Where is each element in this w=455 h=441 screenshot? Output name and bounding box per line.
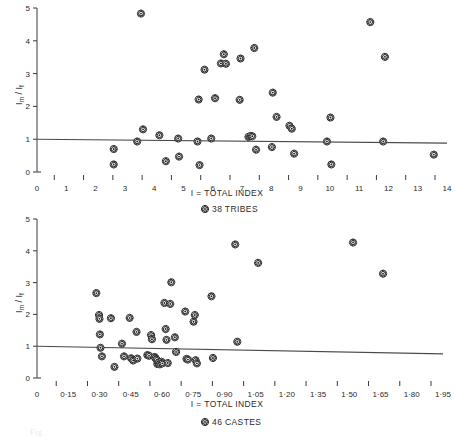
flower-marker: [234, 338, 241, 345]
scatter-plot-tribes: 012345 Im / If 01234567891011121314 I = …: [0, 0, 455, 215]
chart-panel-tribes: 012345 Im / If 01234567891011121314 I = …: [0, 0, 455, 215]
x-tick-label: 14: [443, 184, 452, 193]
legend-marker-tribes: [201, 205, 208, 212]
flower-marker: [175, 135, 182, 142]
flower-marker: [111, 363, 118, 370]
flower-marker: [367, 18, 374, 25]
flower-marker: [163, 336, 170, 343]
y-tick-label: 0: [26, 168, 31, 177]
x-tick-label: 0·75: [185, 390, 202, 399]
flower-marker: [430, 151, 437, 158]
flower-marker: [168, 279, 175, 286]
flower-marker: [120, 353, 127, 360]
y-tick-label: 3: [26, 279, 31, 288]
flower-marker: [133, 328, 140, 335]
flower-marker: [251, 44, 258, 51]
x-tick-label: 0: [35, 390, 40, 399]
flower-marker: [269, 89, 276, 96]
flower-marker: [323, 138, 330, 145]
flower-marker: [118, 340, 125, 347]
flower-marker: [126, 314, 133, 321]
flower-marker: [195, 96, 202, 103]
flower-marker: [148, 336, 155, 343]
flower-marker: [193, 360, 200, 367]
x-tick-label: 13: [413, 184, 422, 193]
legend-castes: 46 CASTES: [201, 417, 261, 427]
x-tick-label: 0·60: [154, 390, 171, 399]
flower-marker: [222, 60, 229, 67]
x-tick-label: 1·65: [373, 390, 390, 399]
flower-marker: [137, 10, 144, 17]
legend-marker-castes: [201, 418, 208, 425]
flower-marker: [380, 138, 387, 145]
x-tick-label: 1·80: [404, 390, 421, 399]
flower-marker: [211, 95, 218, 102]
x-tick-label: 1·20: [279, 390, 296, 399]
flower-marker: [201, 205, 208, 212]
flower-marker: [191, 311, 198, 318]
flower-marker: [208, 135, 215, 142]
flower-marker: [249, 133, 256, 140]
flower-marker: [139, 126, 146, 133]
flower-marker: [237, 55, 244, 62]
y-tick-label-group-tribes: 012345: [26, 4, 31, 177]
flower-marker: [98, 353, 105, 360]
flower-marker: [110, 161, 117, 168]
y-tick-label-group-castes: 012345: [26, 215, 31, 383]
x-tick-label: 2: [93, 184, 98, 193]
flower-marker: [93, 289, 100, 296]
flower-marker: [291, 150, 298, 157]
flower-marker: [175, 153, 182, 160]
y-tick-label: 0: [26, 374, 31, 383]
flower-marker: [164, 359, 171, 366]
x-tick-label: 10: [325, 184, 334, 193]
flower-marker: [201, 418, 208, 425]
data-point-group-tribes: [110, 10, 437, 169]
flower-marker: [236, 96, 243, 103]
svg-text:Im / If: Im / If: [14, 85, 25, 105]
flower-marker: [97, 344, 104, 351]
flower-marker: [134, 138, 141, 145]
flower-marker: [162, 158, 169, 165]
flower-marker: [96, 331, 103, 338]
flower-marker: [232, 241, 239, 248]
flower-marker: [328, 161, 335, 168]
x-tick-label: 1·05: [248, 390, 265, 399]
x-tick-label: 0·30: [91, 390, 108, 399]
flower-marker: [208, 293, 215, 300]
x-axis-title-tribes: I = TOTAL INDEX: [191, 188, 264, 198]
figure-root: 012345 Im / If 01234567891011121314 I = …: [0, 0, 455, 441]
x-tick-label: 5: [181, 184, 186, 193]
flower-marker: [268, 143, 275, 150]
flower-marker: [209, 354, 216, 361]
x-tick-label: 4: [152, 184, 157, 193]
x-tick-label: 1: [64, 184, 69, 193]
flower-marker: [220, 51, 227, 58]
flower-marker: [167, 300, 174, 307]
flower-marker: [162, 325, 169, 332]
flower-marker: [381, 53, 388, 60]
flower-marker: [379, 270, 386, 277]
flower-marker: [254, 259, 261, 266]
x-tick-label: 3: [123, 184, 128, 193]
flower-marker: [273, 113, 280, 120]
x-tick-label: 0: [35, 184, 40, 193]
chart-panel-castes: 012345 Im / If 00·150·300·450·600·750·90…: [0, 215, 455, 441]
y-tick-label: 4: [26, 247, 31, 256]
legend-label-tribes: 38 TRIBES: [212, 204, 258, 214]
flower-marker: [349, 239, 356, 246]
x-tick-label: 11: [355, 184, 364, 193]
x-tick-label: 1·50: [341, 390, 358, 399]
svg-text:Im / If: Im / If: [14, 293, 25, 313]
flower-marker: [182, 308, 189, 315]
flower-marker: [172, 348, 179, 355]
x-tick-label-group-castes: 00·150·300·450·600·750·901·051·201·351·5…: [35, 390, 452, 399]
flower-marker: [201, 66, 208, 73]
x-tick-group-castes: [37, 378, 431, 386]
flower-marker: [327, 114, 334, 121]
x-tick-label: 9: [298, 184, 303, 193]
x-axis-title-castes: I = TOTAL INDEX: [191, 399, 264, 409]
y-tick-label: 3: [26, 70, 31, 79]
x-tick-label: 0·45: [123, 390, 140, 399]
y-tick-group-castes: [33, 219, 37, 378]
